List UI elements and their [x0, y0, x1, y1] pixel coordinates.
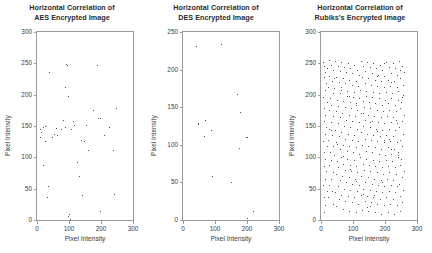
data-point — [363, 164, 364, 165]
data-point — [365, 139, 366, 140]
data-point — [377, 172, 378, 173]
data-point — [384, 142, 385, 143]
y-axis-tick-label: 0 — [12, 216, 32, 223]
data-point — [329, 110, 330, 111]
data-point — [396, 111, 397, 112]
data-point — [98, 118, 99, 119]
data-point — [350, 190, 351, 191]
y-axis-tick — [180, 32, 183, 33]
data-point — [333, 116, 334, 117]
data-point — [361, 195, 362, 196]
data-point — [397, 142, 398, 143]
data-point — [342, 176, 343, 177]
data-point — [380, 136, 381, 137]
data-point — [374, 195, 375, 196]
data-point — [355, 179, 356, 180]
data-point — [357, 191, 358, 192]
data-point — [364, 107, 365, 108]
data-point — [247, 137, 248, 138]
data-point — [391, 73, 392, 74]
data-point — [373, 197, 374, 198]
chart-title-2: Horizontal Correlation ofDES Encrypted I… — [150, 3, 282, 23]
x-axis-tick-label: 100 — [57, 225, 81, 232]
data-point — [376, 68, 377, 69]
x-axis-tick — [321, 221, 322, 224]
data-point — [388, 212, 389, 213]
data-point — [356, 81, 357, 82]
data-point — [372, 97, 373, 98]
data-point — [324, 166, 325, 167]
data-point — [339, 82, 340, 83]
data-point — [362, 77, 363, 78]
data-point — [84, 141, 85, 142]
data-point — [345, 107, 346, 108]
data-point — [48, 186, 49, 187]
data-point — [404, 72, 405, 73]
data-point — [398, 152, 399, 153]
data-point — [360, 157, 361, 158]
data-point — [384, 186, 385, 187]
data-point — [360, 90, 361, 91]
data-point — [335, 130, 336, 131]
data-point — [386, 135, 387, 136]
plot-area-3 — [320, 31, 418, 221]
data-point — [346, 72, 347, 73]
data-point — [327, 191, 328, 192]
data-point — [57, 135, 58, 136]
data-point — [391, 82, 392, 83]
data-point — [365, 83, 366, 84]
y-axis-label: Pixel Intensity — [4, 115, 11, 156]
data-point — [350, 165, 351, 166]
data-point — [384, 76, 385, 77]
y-axis-tick-label: 150 — [12, 122, 32, 129]
data-point — [359, 185, 360, 186]
data-point — [363, 126, 364, 127]
data-point — [401, 102, 402, 103]
data-point — [402, 121, 403, 122]
data-point — [350, 127, 351, 128]
x-axis-tick — [247, 221, 248, 224]
data-point — [403, 85, 404, 86]
data-point — [333, 146, 334, 147]
data-point — [68, 96, 69, 97]
data-point — [338, 66, 339, 67]
data-point — [383, 111, 384, 112]
data-point — [344, 189, 345, 190]
y-axis-tick — [34, 63, 37, 64]
data-point — [79, 176, 80, 177]
data-point — [372, 184, 373, 185]
y-axis-tick — [180, 107, 183, 108]
data-point — [346, 120, 347, 121]
data-point — [324, 66, 325, 67]
x-axis-tick-label: 0 — [309, 225, 333, 232]
data-point — [335, 192, 336, 193]
chart-title-line2: Rubiks's Encrypted Image — [294, 13, 426, 23]
data-point — [391, 149, 392, 150]
data-point — [74, 125, 75, 126]
data-point — [370, 67, 371, 68]
data-point — [49, 72, 50, 73]
x-axis-tick — [37, 221, 38, 224]
data-point — [358, 86, 359, 87]
data-point — [376, 191, 377, 192]
y-axis-tick-label: 250 — [12, 59, 32, 66]
y-axis-tick — [34, 220, 37, 221]
data-point — [363, 66, 364, 67]
data-point — [394, 81, 395, 82]
data-point — [392, 93, 393, 94]
data-point — [377, 86, 378, 87]
data-point — [348, 63, 349, 64]
data-point — [253, 211, 254, 212]
data-point — [395, 105, 396, 106]
data-point — [325, 90, 326, 91]
data-point — [331, 105, 332, 106]
data-point — [333, 172, 334, 173]
data-point — [221, 44, 222, 45]
data-point — [388, 103, 389, 104]
data-point — [387, 179, 388, 180]
data-point — [379, 98, 380, 99]
data-point — [380, 65, 381, 66]
data-point — [247, 218, 248, 219]
data-point — [394, 214, 395, 215]
data-point — [377, 76, 378, 77]
